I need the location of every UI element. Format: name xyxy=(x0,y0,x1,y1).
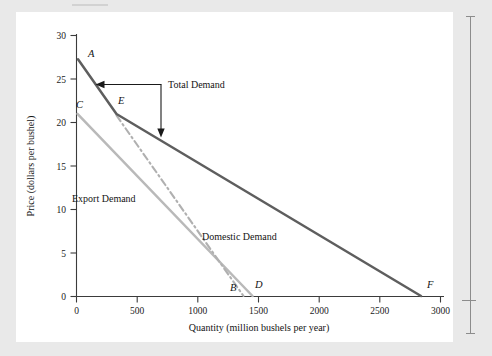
total-demand-line xyxy=(78,59,421,296)
x-tick-label-2500: 2500 xyxy=(370,306,389,316)
domestic-demand-line xyxy=(117,116,244,297)
point-label-A: A xyxy=(87,48,95,59)
x-tick-label-1500: 1500 xyxy=(249,306,268,316)
figure-page: 0 5 10 15 20 25 30 0 500 1000 1500 2000 … xyxy=(0,0,492,356)
x-tick-label-0: 0 xyxy=(74,306,79,316)
y-tick-label-10: 10 xyxy=(57,205,67,215)
x-axis xyxy=(77,297,445,303)
export-demand-label: Export Demand xyxy=(72,193,136,204)
y-axis-title: Price (dollars per bushel) xyxy=(25,116,37,217)
x-tick-label-3000: 3000 xyxy=(431,306,450,316)
demand-curve-chart: 0 5 10 15 20 25 30 0 500 1000 1500 2000 … xyxy=(0,0,492,356)
point-label-B: B xyxy=(230,282,237,293)
y-tick-label-0: 0 xyxy=(61,292,66,302)
x-tick-label-1000: 1000 xyxy=(188,306,207,316)
total-demand-label: Total Demand xyxy=(168,79,225,90)
y-axis xyxy=(71,34,77,297)
x-tick-label-500: 500 xyxy=(130,306,145,316)
y-tick-label-25: 25 xyxy=(57,75,67,85)
y-tick-label-20: 20 xyxy=(57,118,67,128)
y-tick-label-5: 5 xyxy=(61,249,66,259)
y-tick-label-15: 15 xyxy=(57,162,67,172)
point-label-E: E xyxy=(117,95,125,106)
export-demand-line xyxy=(78,114,253,296)
domestic-demand-label: Domestic Demand xyxy=(202,231,277,242)
x-tick-label-2000: 2000 xyxy=(310,306,329,316)
x-axis-title: Quantity (million bushels per year) xyxy=(189,322,330,334)
point-label-C: C xyxy=(76,99,84,110)
point-label-F: F xyxy=(426,279,434,290)
total-demand-leader xyxy=(96,81,165,138)
point-label-D: D xyxy=(254,279,263,290)
y-tick-label-30: 30 xyxy=(57,31,67,41)
